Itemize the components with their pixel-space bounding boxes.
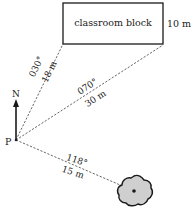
point-p-label: P <box>5 136 12 147</box>
north-arrow-icon <box>13 99 19 107</box>
north-label: N <box>12 89 20 99</box>
bearing-line-118 <box>16 140 134 191</box>
classroom-block-label: classroom block <box>74 17 152 28</box>
building-width-label: 10 m <box>167 18 191 29</box>
bearings-diagram: classroom block 10 m N P 030° 18 m 070° … <box>0 0 195 210</box>
point-p-marker <box>15 139 18 142</box>
tree-center-marker <box>132 189 136 193</box>
